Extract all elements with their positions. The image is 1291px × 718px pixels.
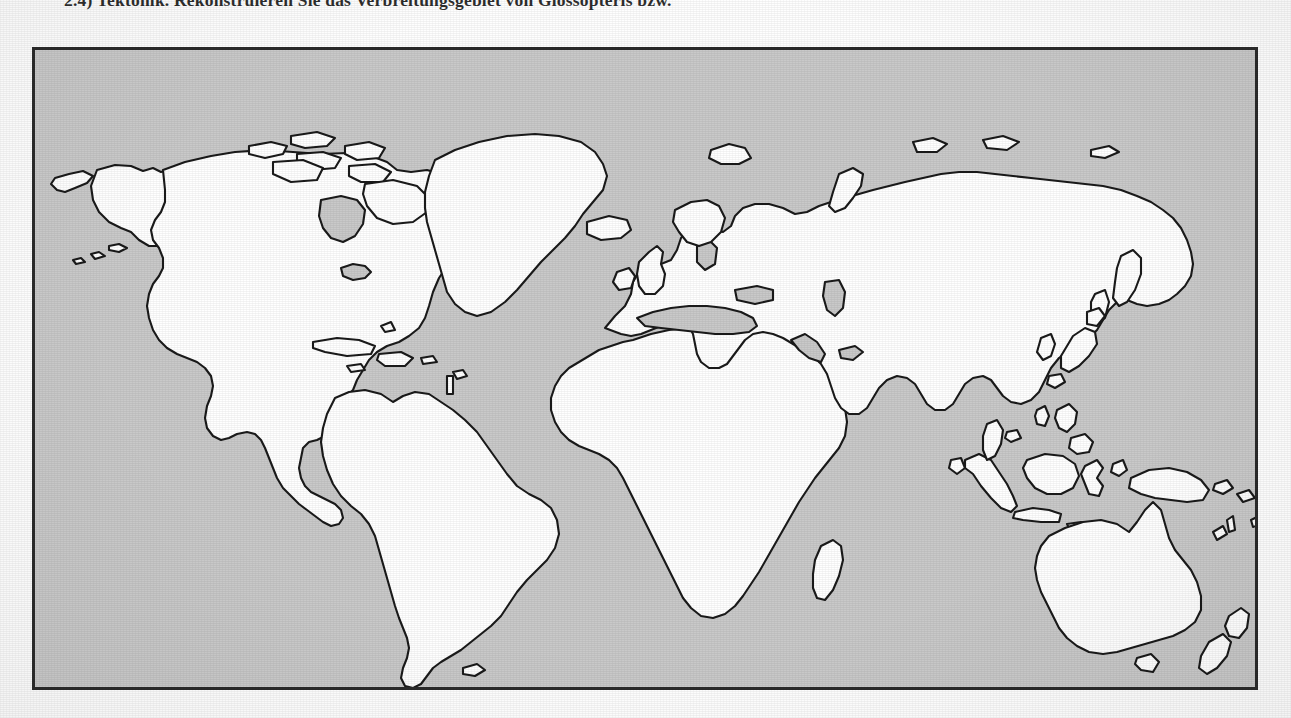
land-aleutians-3 — [73, 258, 85, 264]
land-jamaica — [347, 364, 365, 372]
land-greatlakes-notch — [341, 264, 371, 280]
world-map-svg — [35, 50, 1255, 687]
land-lesser-antilles — [447, 376, 453, 394]
land-ireland — [613, 268, 635, 290]
land-vanuatu — [1227, 516, 1235, 532]
land-puerto-rico — [421, 356, 437, 364]
land-iceland — [587, 216, 631, 240]
worksheet-page: 2.4) Tektonik. Rekonstruieren Sie das Ve… — [0, 0, 1291, 718]
land-taiwan — [1035, 406, 1049, 426]
sea-black-sea — [735, 286, 773, 304]
world-map-figure — [32, 47, 1258, 690]
land-arctic-island-4 — [345, 142, 385, 160]
land-philippines-mindanao — [1069, 434, 1093, 454]
sea-caspian — [823, 280, 845, 316]
exercise-text: 2.4) Tektonik. Rekonstruieren Sie das Ve… — [64, 0, 1244, 13]
land-trinidad — [453, 370, 467, 379]
